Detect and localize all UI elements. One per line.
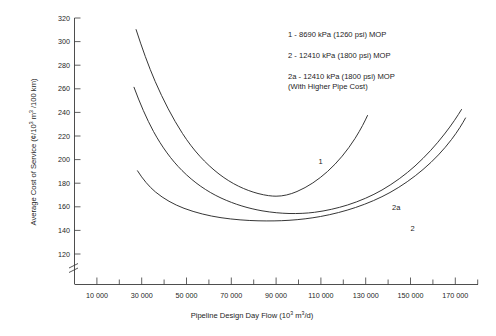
x-tick-label: 150 000 [398,291,424,300]
x-axis-title-prefix: Pipeline Design Day Flow (10 [191,311,291,320]
x-tick-label: 130 000 [353,291,379,300]
curve-annotations: 1 2a 2 [319,157,415,233]
y-tick-label: 180 [58,179,70,188]
x-tick-label: 70 000 [220,291,242,300]
x-tick-label: 10 000 [86,291,108,300]
curve-label-1: 1 [319,157,323,166]
curve-series-2a [138,118,466,221]
x-tick-label: 90 000 [265,291,287,300]
y-tick-label: 120 [58,250,70,259]
curve-label-2: 2 [411,224,415,233]
y-tick-label: 220 [58,132,70,141]
y-tick-label: 160 [58,202,70,211]
curve-label-2a: 2a [392,203,401,212]
x-tick-label: 110 000 [308,291,333,300]
legend-entry-2a-line1: 2a - 12410 kPa (1800 psi) MOP [288,72,395,81]
x-tick-label: 170 000 [442,291,468,300]
y-tick-label: 280 [58,61,70,70]
x-axis-title: Pipeline Design Day Flow (103 m3/d) [191,310,314,320]
chart-figure: 120 140 160 180 200 220 240 260 280 300 … [0,0,496,336]
y-axis-break-icon [69,264,78,273]
x-tick-label: 30 000 [131,291,153,300]
svg-text:Average Cost of Service (¢/103: Average Cost of Service (¢/103 m3 /100 k… [28,78,38,226]
y-axis-title-prefix: Average Cost of Service (¢/10 [29,124,38,225]
y-axis-title-mid: m [29,113,38,121]
legend-entry-2: 2 - 12410 kPa (1800 psi) MOP [288,51,391,60]
y-axis-title-suffix: /100 km) [29,78,38,110]
y-tick-label: 140 [58,226,70,235]
y-axis: 120 140 160 180 200 220 240 260 280 300 … [28,14,80,284]
y-axis-title: Average Cost of Service (¢/103 m3 /100 k… [28,78,38,226]
top-caption [38,0,468,2]
x-tick-label: 50 000 [176,291,198,300]
y-tick-label: 320 [58,14,70,23]
legend-entry-1: 1 - 8690 kPa (1260 psi) MOP [288,30,386,39]
x-tick-marks [97,278,478,285]
chart-svg: 120 140 160 180 200 220 240 260 280 300 … [0,0,496,336]
x-axis-title-mid: m [293,311,301,320]
x-axis-title-suffix: /d) [304,311,313,320]
x-axis: 10 000 30 000 50 000 70 000 90 000 110 0… [75,278,479,321]
y-tick-label: 260 [58,84,70,93]
y-tick-label: 200 [58,155,70,164]
curve-series-2 [134,87,462,213]
y-tick-marks [75,18,81,254]
y-tick-label: 300 [58,37,70,46]
y-tick-label: 240 [58,108,70,117]
legend-block: 1 - 8690 kPa (1260 psi) MOP 2 - 12410 kP… [288,30,395,91]
legend-entry-2a-line2: (With Higher Pipe Cost) [288,82,368,91]
